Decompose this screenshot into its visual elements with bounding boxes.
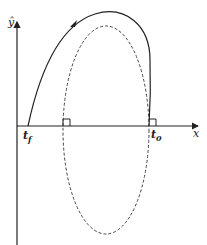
trajectory-curve bbox=[28, 12, 150, 126]
x-axis-label: x bbox=[193, 127, 200, 140]
diagram-canvas: ŷ x tf t0 bbox=[0, 0, 207, 245]
right-angle-marker-left bbox=[63, 119, 70, 126]
right-angle-marker-right bbox=[149, 119, 156, 126]
t-final-label: tf bbox=[23, 129, 33, 144]
dashed-ellipse bbox=[63, 26, 149, 234]
direction-arrow-icon bbox=[70, 20, 77, 27]
y-axis-label: ŷ bbox=[7, 16, 15, 29]
t-initial-label: t0 bbox=[151, 128, 162, 143]
